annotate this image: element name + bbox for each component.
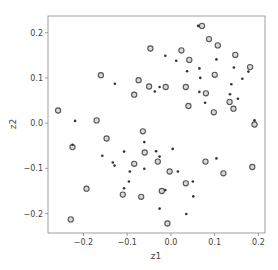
dot-marker xyxy=(197,25,200,28)
open-circle-marker xyxy=(221,171,226,176)
dot-marker xyxy=(123,187,126,190)
dot-marker xyxy=(204,102,207,105)
dot-marker xyxy=(230,83,233,86)
open-circle-marker xyxy=(233,52,238,57)
open-circle-marker xyxy=(183,181,188,186)
plot-area xyxy=(48,16,265,233)
open-circle-marker xyxy=(98,73,103,78)
dot-marker xyxy=(198,67,201,70)
open-circle-marker xyxy=(132,92,137,97)
x-tick-label: 0.1 xyxy=(208,238,221,247)
dot-marker xyxy=(229,93,232,96)
scatter-chart: −0.2−0.10.00.10.2 −0.2−0.10.00.10.2 z1 z… xyxy=(0,0,278,270)
open-circle-marker xyxy=(148,46,153,51)
open-circle-marker xyxy=(187,57,192,62)
open-circle-marker xyxy=(68,217,73,222)
dot-marker xyxy=(74,120,77,123)
open-circle-marker xyxy=(183,84,188,89)
dot-marker xyxy=(143,168,146,171)
open-circle-marker xyxy=(147,84,152,89)
dot-marker xyxy=(192,180,195,183)
open-circle-marker xyxy=(94,118,99,123)
open-circle-marker xyxy=(139,194,144,199)
y-tick-label: −0.2 xyxy=(24,210,43,219)
open-circle-marker xyxy=(140,129,145,134)
x-axis-ticks: −0.2−0.10.00.10.2 xyxy=(74,233,265,247)
open-circle-marker xyxy=(203,91,208,96)
open-circle-marker xyxy=(215,43,220,48)
y-tick-label: 0.1 xyxy=(30,74,43,83)
open-circle-marker xyxy=(163,84,168,89)
open-circle-marker xyxy=(56,108,61,113)
open-circle-marker xyxy=(84,186,89,191)
dot-marker xyxy=(164,55,167,58)
open-circle-marker xyxy=(142,150,147,155)
open-circle-marker xyxy=(212,72,217,77)
dot-marker xyxy=(175,60,178,63)
dot-marker xyxy=(171,148,174,151)
y-tick-label: 0.0 xyxy=(30,119,43,128)
dot-marker xyxy=(198,91,201,94)
dot-marker xyxy=(247,70,250,73)
dot-marker xyxy=(123,150,126,153)
dot-marker xyxy=(128,180,131,183)
x-tick-label: 0.2 xyxy=(252,238,265,247)
y-tick-label: 0.2 xyxy=(30,29,43,38)
dot-marker xyxy=(112,161,115,164)
open-circle-marker xyxy=(159,188,164,193)
open-circle-marker xyxy=(167,169,172,174)
dot-marker xyxy=(199,77,202,80)
open-circle-marker xyxy=(136,78,141,83)
open-circle-marker xyxy=(248,65,253,70)
open-circle-marker xyxy=(186,103,191,108)
open-circle-marker xyxy=(231,106,236,111)
open-circle-marker xyxy=(155,159,160,164)
dot-marker xyxy=(237,97,240,100)
y-axis-label: z2 xyxy=(8,119,18,129)
y-tick-label: −0.1 xyxy=(24,164,43,173)
dot-marker xyxy=(253,119,256,122)
dot-marker xyxy=(129,170,132,173)
dot-marker xyxy=(192,195,195,198)
dot-marker xyxy=(186,70,189,73)
open-circle-marker xyxy=(227,99,232,104)
x-tick-label: 0.0 xyxy=(165,238,178,247)
dot-marker xyxy=(101,154,104,157)
dot-marker xyxy=(114,83,117,86)
dot-marker xyxy=(185,213,188,216)
open-circle-marker xyxy=(252,122,257,127)
x-tick-label: −0.1 xyxy=(117,238,136,247)
open-circle-marker xyxy=(104,136,109,141)
dot-marker xyxy=(177,170,180,173)
open-circle-marker xyxy=(165,221,170,226)
open-circle-marker xyxy=(179,48,184,53)
open-circle-marker xyxy=(211,110,216,115)
dot-marker xyxy=(215,157,218,160)
open-circle-marker xyxy=(250,164,255,169)
x-axis-label: z1 xyxy=(151,251,161,261)
dot-marker xyxy=(241,78,244,81)
dot-marker xyxy=(158,155,161,158)
y-axis-ticks: −0.2−0.10.00.10.2 xyxy=(24,29,48,219)
dot-marker xyxy=(143,141,146,144)
open-circle-marker xyxy=(203,159,208,164)
open-circle-marker xyxy=(199,23,204,28)
dot-marker xyxy=(154,90,157,93)
open-circle-marker xyxy=(132,161,137,166)
dot-marker xyxy=(158,207,161,210)
dot-marker xyxy=(158,86,161,89)
dot-marker xyxy=(164,189,167,192)
dot-marker xyxy=(215,58,218,61)
dot-marker xyxy=(113,164,116,167)
dot-marker xyxy=(233,66,236,69)
open-circle-marker xyxy=(206,37,211,42)
x-tick-label: −0.2 xyxy=(74,238,93,247)
dot-marker xyxy=(71,144,74,147)
dot-marker xyxy=(155,150,158,153)
open-circle-marker xyxy=(120,192,125,197)
